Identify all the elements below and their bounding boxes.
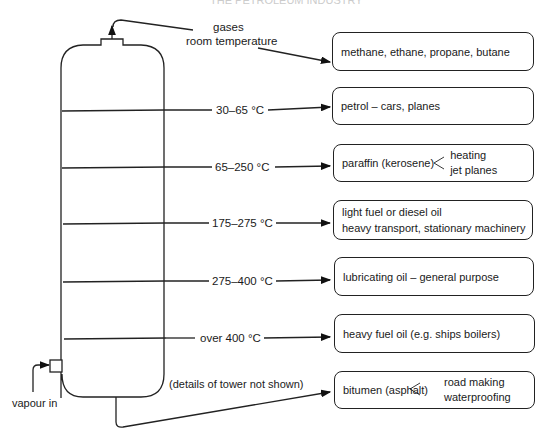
product-name: petrol – cars, planes: [341, 100, 440, 112]
tower-outline: [61, 39, 164, 398]
product-use: road making: [444, 375, 511, 390]
product-use: heating: [450, 148, 497, 163]
product-box-petrol: petrol – cars, planes: [332, 87, 534, 125]
product-use: waterproofing: [444, 390, 511, 405]
product-name: lubricating oil – general purpose: [343, 271, 499, 283]
product-name: methane, ethane, propane, butane: [341, 46, 510, 58]
product-name: heavy fuel oil (e.g. ships boilers): [343, 328, 500, 340]
product-name: bitumen (asphalt): [343, 384, 428, 396]
fraction-temp-label: 175–275 °C: [209, 216, 276, 230]
room-temperature-label: room temperature: [186, 34, 277, 48]
product-box-paraffin: paraffin (kerosene) heating jet planes: [333, 144, 534, 182]
vapour-in-label: vapour in: [12, 396, 57, 410]
product-name: light fuel or diesel oil: [342, 204, 525, 220]
product-box-gases: methane, ethane, propane, butane: [332, 32, 534, 71]
fraction-temp-label: 30–65 °C: [213, 103, 267, 117]
product-box-bitumen: bitumen (asphalt) road making waterproof…: [334, 371, 535, 409]
fraction-temp-label: 275–400 °C: [209, 274, 276, 288]
product-box-heavy-fuel-oil: heavy fuel oil (e.g. ships boilers): [334, 314, 535, 353]
product-use: heavy transport, stationary machinery: [342, 220, 525, 236]
fraction-temp-label: over 400 °C: [197, 331, 264, 345]
product-use: jet planes: [450, 163, 497, 178]
product-box-diesel: light fuel or diesel oil heavy transport…: [333, 200, 533, 240]
gases-label: gases: [213, 20, 244, 34]
tower-note: (details of tower not shown): [169, 377, 304, 391]
product-box-lubricating-oil: lubricating oil – general purpose: [334, 257, 534, 296]
product-name: paraffin (kerosene): [342, 157, 434, 169]
fraction-temp-label: 65–250 °C: [212, 160, 272, 174]
